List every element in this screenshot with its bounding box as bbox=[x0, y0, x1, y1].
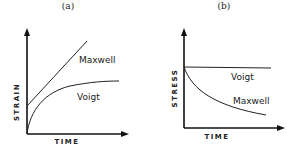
creep-relaxation-diagram: (a) STRAIN TIME Maxwell Voigt (b) STRESS… bbox=[0, 0, 292, 152]
y-axis-label-b: STRESS bbox=[171, 69, 179, 108]
panel-a-title: (a) bbox=[62, 1, 74, 11]
y-axis-arrow-icon bbox=[181, 28, 187, 36]
y-axis-arrow-icon bbox=[24, 28, 30, 36]
voigt-curve-b bbox=[184, 67, 271, 68]
x-axis-arrow-icon bbox=[121, 131, 129, 137]
x-axis-arrow-icon bbox=[277, 125, 285, 131]
panel-b-title: (b) bbox=[218, 1, 231, 11]
panel-a: (a) STRAIN TIME Maxwell Voigt bbox=[13, 1, 129, 146]
voigt-label-b: Voigt bbox=[231, 72, 254, 82]
voigt-label-a: Voigt bbox=[77, 92, 100, 102]
y-axis-label-a: STRAIN bbox=[13, 83, 21, 121]
maxwell-label-a: Maxwell bbox=[79, 55, 116, 65]
voigt-curve-a bbox=[27, 81, 119, 134]
panel-b: (b) STRESS TIME Voigt Maxwell bbox=[171, 1, 285, 141]
x-axis-label-a: TIME bbox=[54, 138, 79, 146]
maxwell-label-b: Maxwell bbox=[233, 96, 270, 106]
x-axis-label-b: TIME bbox=[204, 133, 229, 141]
